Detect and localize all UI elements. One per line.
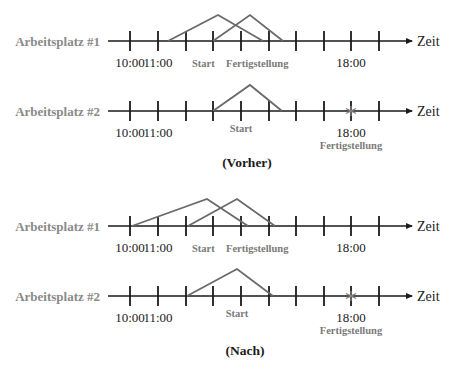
- workstation-label: Arbeitsplatz #1: [15, 219, 100, 234]
- completion-marker-label: Fertigstellung: [226, 243, 289, 254]
- workstation-schedule-diagram: Arbeitsplatz #1Zeit10:0011:0018:00StartF…: [0, 0, 458, 374]
- start-marker-label: Start: [230, 123, 253, 134]
- time-label: 11:00: [143, 240, 172, 255]
- time-label: 10:00: [115, 240, 145, 255]
- task-duration-shape: [168, 15, 263, 41]
- start-marker-label: Start: [226, 308, 249, 319]
- time-label: 10:00: [115, 125, 145, 140]
- time-label: 18:00: [336, 55, 366, 70]
- panel-after: Arbeitsplatz #1Zeit10:0011:0018:00StartF…: [15, 199, 440, 358]
- task-duration-shape: [188, 199, 275, 226]
- axis-label-zeit: Zeit: [417, 219, 440, 234]
- completion-marker-label: Fertigstellung: [226, 58, 289, 69]
- time-label: 11:00: [143, 55, 172, 70]
- workstation-row: Arbeitsplatz #2Zeit10:0011:0018:00StartF…: [15, 269, 440, 336]
- diagram-canvas: Arbeitsplatz #1Zeit10:0011:0018:00StartF…: [0, 0, 458, 374]
- completion-marker-label: Fertigstellung: [320, 325, 383, 336]
- time-label: 18:00: [336, 310, 366, 325]
- axis-label-zeit: Zeit: [417, 104, 440, 119]
- axis-label-zeit: Zeit: [417, 34, 440, 49]
- workstation-row: Arbeitsplatz #2Zeit10:0011:0018:00StartF…: [15, 85, 440, 151]
- workstation-label: Arbeitsplatz #2: [15, 104, 100, 119]
- workstation-row: Arbeitsplatz #1Zeit10:0011:0018:00StartF…: [15, 199, 440, 255]
- axis-label-zeit: Zeit: [417, 289, 440, 304]
- time-label: 10:00: [115, 55, 145, 70]
- workstation-row: Arbeitsplatz #1Zeit10:0011:0018:00StartF…: [15, 15, 440, 70]
- time-label: 11:00: [143, 125, 172, 140]
- task-duration-shape: [213, 85, 282, 111]
- completion-marker-label: Fertigstellung: [320, 140, 383, 151]
- time-label: 10:00: [115, 310, 145, 325]
- task-duration-shape: [187, 269, 273, 296]
- workstation-label: Arbeitsplatz #2: [15, 289, 100, 304]
- start-marker-label: Start: [192, 58, 215, 69]
- time-label: 18:00: [336, 240, 366, 255]
- caption-after: (Nach): [226, 343, 265, 358]
- caption-before: (Vorher): [222, 155, 272, 170]
- time-label: 11:00: [143, 310, 172, 325]
- time-label: 18:00: [336, 125, 366, 140]
- start-marker-label: Start: [192, 243, 215, 254]
- workstation-label: Arbeitsplatz #1: [15, 34, 100, 49]
- panel-before: Arbeitsplatz #1Zeit10:0011:0018:00StartF…: [15, 15, 440, 170]
